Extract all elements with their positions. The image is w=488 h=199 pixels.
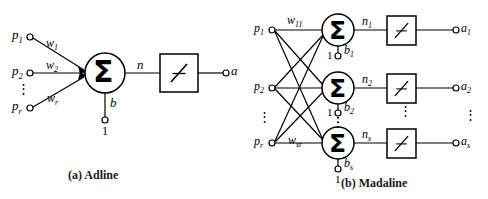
net-label-n: n xyxy=(137,58,144,74)
bias-terminal xyxy=(102,117,108,123)
input-terminal-p1 xyxy=(27,34,33,40)
figure-canvas: p1 p2 ⋮ pr w1 w2 wr Σ n b 1 a (a) Adline… xyxy=(0,0,488,199)
weight-label-wsr: wsr xyxy=(288,134,302,149)
weight-label-w11: w11 xyxy=(287,14,302,29)
bias-input-value-3: 1 xyxy=(335,174,341,185)
output-terminal-a1 xyxy=(453,27,459,33)
weight-line-p1-n3 xyxy=(275,32,323,140)
weight-line-p2-n1 xyxy=(275,35,323,87)
input-terminal-p2-b xyxy=(269,85,275,91)
weight-line-p2-n3 xyxy=(275,89,323,140)
weight-label-wr: wr xyxy=(47,92,58,107)
input-label-p2-b: p2 xyxy=(254,80,264,95)
bias-input-value-2: 1 xyxy=(327,107,333,118)
weight-line-wr xyxy=(33,77,84,107)
output-label-a1: a1 xyxy=(461,22,471,37)
input-terminal-pr xyxy=(27,105,33,111)
weight-line-p1-n2 xyxy=(275,31,323,85)
transfer-stack-dots: ⋮ xyxy=(399,104,412,117)
bias-terminal-1 xyxy=(335,53,341,59)
output-label-a2: a2 xyxy=(461,80,471,95)
caption-panel-b: (b) Madaline xyxy=(341,176,407,191)
net-label-ns: ns xyxy=(362,128,371,143)
input-terminal-p1-b xyxy=(269,27,275,33)
bias-label-b1: b1 xyxy=(344,44,354,59)
bias-terminal-2 xyxy=(335,110,341,116)
bias-input-value: 1 xyxy=(102,125,108,137)
input-terminal-p2 xyxy=(27,70,33,76)
weight-line-w1 xyxy=(33,38,84,70)
output-terminal-a2 xyxy=(453,85,459,91)
summation-symbol: Σ xyxy=(93,57,114,87)
output-label-a: a xyxy=(231,64,238,80)
summation-symbol-1: Σ xyxy=(329,18,346,43)
input-label-p1: p1 xyxy=(12,28,23,44)
input-label-pr: pr xyxy=(12,99,22,115)
input-dots-b: ⋮ xyxy=(258,110,271,123)
bias-label-bs: bs xyxy=(344,157,353,172)
output-terminal-as xyxy=(453,140,459,146)
net-label-n1: n1 xyxy=(362,15,372,30)
bias-label-b: b xyxy=(110,96,117,112)
input-label-p2: p2 xyxy=(12,64,23,80)
output-label-as: as xyxy=(461,135,470,150)
net-label-n2: n2 xyxy=(362,73,372,88)
weight-label-w1: w1 xyxy=(46,37,58,52)
output-terminal-a xyxy=(223,70,229,76)
input-dots-a: ⋮ xyxy=(17,82,30,95)
summation-symbol-2: Σ xyxy=(329,76,346,101)
input-label-pr-b: pr xyxy=(254,135,263,150)
input-label-p1-b: p1 xyxy=(254,22,264,37)
input-terminal-pr-b xyxy=(269,140,275,146)
bias-terminal-3 xyxy=(335,166,341,172)
weight-label-w2: w2 xyxy=(46,59,58,74)
summation-symbol-3: Σ xyxy=(329,131,346,156)
output-dots-b: ⋮ xyxy=(464,108,477,121)
bias-label-b2: b2 xyxy=(344,101,354,116)
bias-input-value-1: 1 xyxy=(327,50,333,61)
caption-panel-a: (a) Adline xyxy=(68,168,118,183)
